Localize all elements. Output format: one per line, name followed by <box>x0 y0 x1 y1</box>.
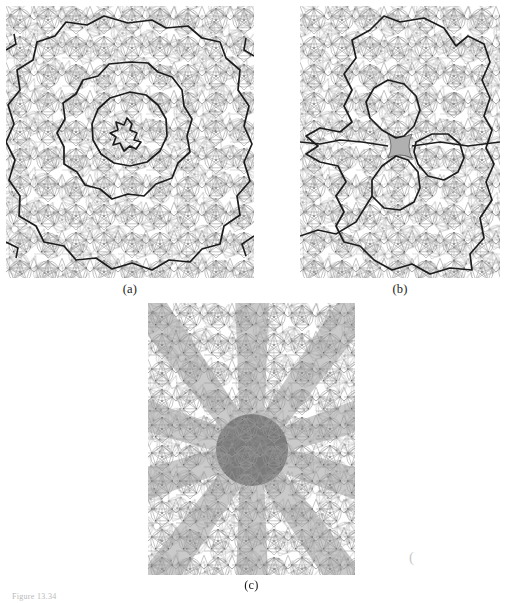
panel-c-caption: (c) <box>148 578 355 593</box>
panel-c <box>148 303 355 575</box>
panel-b <box>300 6 500 278</box>
panel-b-caption: (b) <box>300 282 500 297</box>
panel-a <box>6 6 254 278</box>
figure-number-label: Figure 13.34 <box>12 592 57 601</box>
stray-parenthesis-mark: ( <box>409 547 415 567</box>
figure-sheet: (a) <box>0 0 510 603</box>
panel-a-tiling-layer-2 <box>6 6 254 278</box>
panel-a-caption: (a) <box>6 282 254 297</box>
